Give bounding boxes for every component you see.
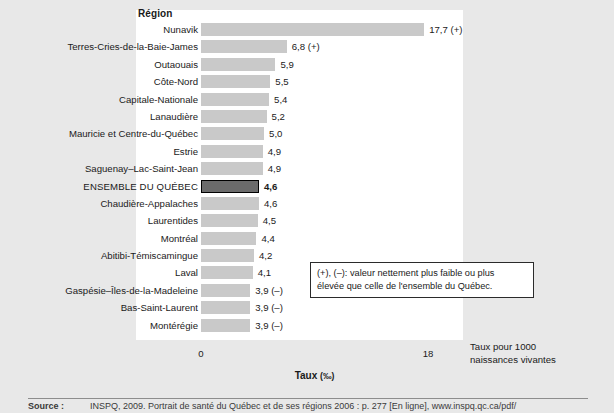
row-label-11: Laurentides <box>148 215 198 227</box>
bar <box>201 75 270 88</box>
bar <box>201 301 250 314</box>
bar-track <box>201 266 253 279</box>
footer-divider <box>28 398 588 399</box>
bar-value-label: 6,8 (+) <box>292 41 320 53</box>
chart-row: Saguenay–Lac-Saint-Jean4,9 <box>0 161 614 178</box>
bar-track <box>201 145 263 158</box>
bar <box>201 284 250 297</box>
x-axis-unit: (‰) <box>320 371 334 381</box>
bar <box>201 180 259 193</box>
chart-row: Estrie4,9 <box>0 144 614 161</box>
bar-track <box>201 23 424 36</box>
chart-row: Montréal4,4 <box>0 231 614 248</box>
bar-value-label: 3,9 (–) <box>255 320 283 332</box>
bar <box>201 58 275 71</box>
row-label-0: Nunavik <box>163 24 198 36</box>
column-header-region: Région <box>138 8 173 19</box>
chart-row: Laurentides4,5 <box>0 213 614 230</box>
bar <box>201 232 256 245</box>
chart-row: Montérégie3,9 (–) <box>0 318 614 335</box>
bar-track <box>201 249 254 262</box>
x-axis-title-text: Taux <box>295 370 318 381</box>
bar-track <box>201 162 263 175</box>
legend-note-box: (+), (–): valeur nettement plus faible o… <box>310 262 534 298</box>
chart-row: Chaudière-Appalaches4,6 <box>0 196 614 213</box>
axis-side-note: Taux pour 1000 naissances vivantes <box>470 341 556 366</box>
chart-row: Capitale-Nationale5,4 <box>0 92 614 109</box>
source-text: INSPQ, 2009. Portrait de santé du Québec… <box>90 401 516 411</box>
bar-track <box>201 40 287 53</box>
bar <box>201 145 263 158</box>
row-label-17: Montérégie <box>150 320 198 332</box>
bar-track <box>201 75 270 88</box>
bar-value-label: 5,0 <box>269 128 282 140</box>
row-label-7: Estrie <box>173 146 198 158</box>
row-label-2: Outaouais <box>154 59 198 71</box>
row-label-13: Abitibi-Témiscamingue <box>101 250 198 262</box>
chart-row: Outaouais5,9 <box>0 57 614 74</box>
row-label-6: Mauricie et Centre-du-Québec <box>69 128 198 140</box>
chart-row: ENSEMBLE DU QUÉBEC4,6 <box>0 179 614 196</box>
row-label-1: Terres-Cries-de-la-Baie-James <box>67 41 198 53</box>
bar-value-label: 4,9 <box>268 163 281 175</box>
bar-value-label: 3,9 (–) <box>255 285 283 297</box>
bar <box>201 197 259 210</box>
row-label-14: Laval <box>175 267 198 279</box>
bar <box>201 93 269 106</box>
bar-track <box>201 284 250 297</box>
bar-value-label: 5,4 <box>274 94 287 106</box>
axis-side-note-line2: naissances vivantes <box>470 354 556 367</box>
x-tick-0: 0 <box>198 348 203 359</box>
bar-value-label: 4,6 <box>264 181 277 193</box>
chart-figure: Région Nunavik17,7 (+)Terres-Cries-de-la… <box>0 0 614 413</box>
bar <box>201 162 263 175</box>
bar-track <box>201 58 275 71</box>
chart-row: Mauricie et Centre-du-Québec5,0 <box>0 126 614 143</box>
x-axis-title: Taux (‰) <box>201 370 428 381</box>
bar-value-label: 5,9 <box>280 59 293 71</box>
bar <box>201 110 267 123</box>
bar-track <box>201 93 269 106</box>
bar <box>201 23 424 36</box>
bar-value-label: 4,9 <box>268 146 281 158</box>
legend-note-line1: (+), (–): valeur nettement plus faible o… <box>317 267 527 280</box>
bar-value-label: 4,5 <box>263 215 276 227</box>
bar <box>201 214 258 227</box>
bar-value-label: 17,7 (+) <box>429 24 462 36</box>
chart-row: Terres-Cries-de-la-Baie-James6,8 (+) <box>0 39 614 56</box>
source-footer: Source :INSPQ, 2009. Portrait de santé d… <box>28 401 614 412</box>
row-label-8: Saguenay–Lac-Saint-Jean <box>85 163 198 175</box>
bar-value-label: 3,9 (–) <box>255 302 283 314</box>
bar-track <box>201 214 258 227</box>
chart-row: Bas-Saint-Laurent3,9 (–) <box>0 300 614 317</box>
bar-value-label: 4,1 <box>258 267 271 279</box>
row-label-16: Bas-Saint-Laurent <box>121 302 198 314</box>
chart-row: Nunavik17,7 (+) <box>0 22 614 39</box>
chart-row: Côte-Nord5,5 <box>0 74 614 91</box>
bar-track <box>201 110 267 123</box>
row-label-ensemble: ENSEMBLE DU QUÉBEC <box>83 181 198 193</box>
bar <box>201 319 250 332</box>
bar-track <box>201 197 259 210</box>
bar <box>201 249 254 262</box>
source-label: Source : <box>28 401 64 411</box>
bar-value-label: 4,2 <box>259 250 272 262</box>
bar-track <box>201 232 256 245</box>
row-label-3: Côte-Nord <box>154 76 198 88</box>
row-label-12: Montréal <box>161 233 198 245</box>
bar-track <box>201 301 250 314</box>
chart-row: Lanaudière5,2 <box>0 109 614 126</box>
bar-value-label: 5,2 <box>272 111 285 123</box>
bar-value-label: 5,5 <box>275 76 288 88</box>
bar <box>201 127 264 140</box>
bar-track <box>201 180 259 193</box>
row-label-5: Lanaudière <box>150 111 198 123</box>
bar-value-label: 4,4 <box>261 233 274 245</box>
bar-value-label: 4,6 <box>264 198 277 210</box>
row-label-10: Chaudière-Appalaches <box>100 198 198 210</box>
row-label-4: Capitale-Nationale <box>119 94 198 106</box>
x-tick-18: 18 <box>423 348 434 359</box>
legend-note-line2: élevée que celle de l'ensemble du Québec… <box>317 280 527 293</box>
bar-track <box>201 127 264 140</box>
row-label-15: Gaspésie–Îles-de-la-Madeleine <box>65 285 198 297</box>
